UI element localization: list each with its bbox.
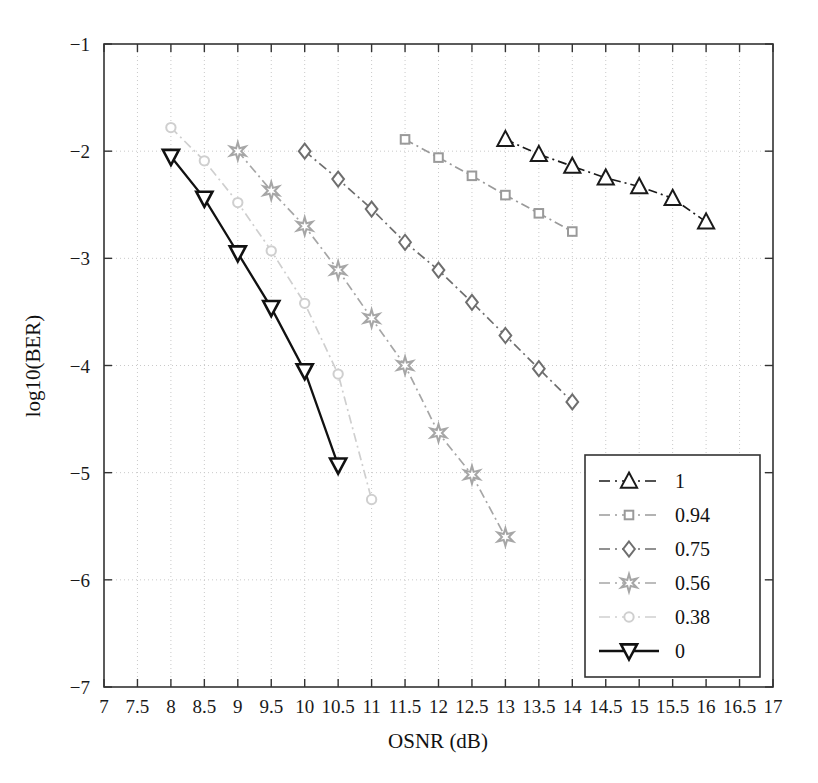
data-point-marker <box>233 198 242 207</box>
legend-label: 0.56 <box>675 572 710 594</box>
data-point-marker <box>196 192 212 207</box>
series-1 <box>497 131 714 229</box>
x-tick-label: 10 <box>295 696 314 717</box>
ber-vs-osnr-chart: 77.588.599.51010.51111.51212.51313.51414… <box>0 0 818 783</box>
y-axis-label: log10(BER) <box>21 315 45 418</box>
data-point-marker <box>566 394 578 409</box>
data-point-marker <box>598 169 614 184</box>
series-0.94 <box>401 135 577 236</box>
data-point-marker <box>531 146 547 161</box>
data-point-marker <box>263 301 279 316</box>
x-tick-label: 11.5 <box>389 696 422 717</box>
data-point-marker <box>267 246 276 255</box>
y-tick-label: −4 <box>70 356 91 377</box>
y-tick-label: −3 <box>70 248 90 269</box>
data-point-marker <box>300 299 309 308</box>
legend-label: 0.75 <box>675 538 710 560</box>
data-point-marker <box>399 235 411 250</box>
data-point-marker <box>665 190 681 205</box>
y-tick-label: −7 <box>70 677 90 698</box>
series-line <box>405 139 572 231</box>
legend-label: 0.38 <box>675 606 710 628</box>
series-line <box>171 157 338 466</box>
x-tick-label: 13.5 <box>522 696 555 717</box>
x-tick-label: 14 <box>563 696 583 717</box>
data-point-marker <box>401 135 410 144</box>
x-tick-label: 11 <box>362 696 380 717</box>
chart-figure: 77.588.599.51010.51111.51212.51313.51414… <box>0 0 818 783</box>
data-point-marker <box>568 227 577 236</box>
x-tick-label: 16.5 <box>723 696 756 717</box>
data-point-marker <box>497 131 513 146</box>
legend-label: 0.94 <box>675 504 710 526</box>
legend-label: 0 <box>675 640 685 662</box>
legend-marker-square-icon <box>625 511 634 520</box>
legend-marker-circle-icon <box>624 612 633 621</box>
x-tick-label: 15.5 <box>656 696 689 717</box>
y-tick-label: −5 <box>70 463 90 484</box>
data-point-marker <box>433 263 445 278</box>
data-point-marker <box>501 191 510 200</box>
data-point-marker <box>330 459 346 474</box>
x-tick-label: 8.5 <box>192 696 216 717</box>
legend-label: 1 <box>675 470 685 492</box>
data-point-marker <box>200 156 209 165</box>
x-tick-label: 12.5 <box>455 696 488 717</box>
data-point-marker <box>299 144 311 159</box>
x-tick-label: 17 <box>764 696 783 717</box>
data-point-marker <box>698 213 714 228</box>
data-point-marker <box>333 369 342 378</box>
data-point-marker <box>464 466 479 484</box>
x-tick-label: 12 <box>429 696 448 717</box>
data-point-marker <box>564 158 580 173</box>
x-tick-label: 9.5 <box>259 696 283 717</box>
x-tick-label: 16 <box>697 696 716 717</box>
x-tick-label: 10.5 <box>322 696 355 717</box>
legend-box[interactable]: 10.940.750.560.380 <box>585 455 760 677</box>
y-tick-label: −1 <box>70 34 90 55</box>
x-tick-label: 14.5 <box>589 696 622 717</box>
data-point-marker <box>498 528 513 546</box>
x-tick-label: 7.5 <box>126 696 150 717</box>
x-tick-label: 7 <box>99 696 109 717</box>
data-point-marker <box>166 123 175 132</box>
data-point-marker <box>332 172 344 187</box>
y-tick-label: −6 <box>70 570 90 591</box>
data-point-marker <box>297 364 313 379</box>
y-tick-label: −2 <box>70 141 90 162</box>
series-0 <box>163 150 346 474</box>
x-axis-label: OSNR (dB) <box>388 729 488 753</box>
data-point-marker <box>535 209 544 218</box>
data-point-marker <box>397 357 412 375</box>
x-tick-label: 9 <box>233 696 243 717</box>
x-tick-label: 8 <box>166 696 176 717</box>
data-point-marker <box>230 246 246 261</box>
x-tick-label: 15 <box>630 696 649 717</box>
x-tick-label: 13 <box>496 696 515 717</box>
data-point-marker <box>468 172 477 181</box>
data-point-marker <box>434 153 443 162</box>
data-point-marker <box>367 495 376 504</box>
